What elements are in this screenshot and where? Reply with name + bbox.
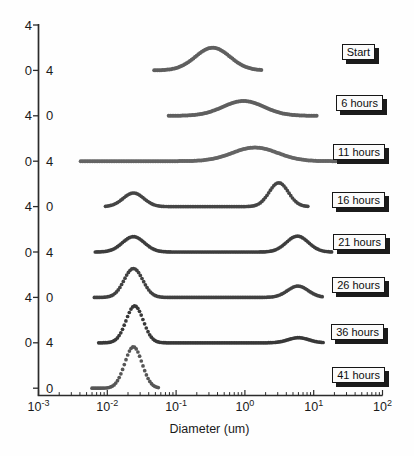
series-label-41-hours: 41 hours (332, 367, 385, 383)
series-label-11-hours: 11 hours (333, 144, 385, 160)
series-labels: Start6 hours11 hours16 hours21 hours26 h… (0, 0, 414, 456)
series-label-16-hours: 16 hours (332, 192, 385, 208)
series-label-start: Start (342, 44, 375, 60)
series-label-6-hours: 6 hours (336, 95, 383, 111)
series-label-26-hours: 26 hours (332, 277, 385, 293)
particle-size-distribution-figure: 404400440044004010-310-210-1100101102Dia… (0, 0, 414, 456)
series-label-21-hours: 21 hours (333, 234, 386, 250)
series-label-36-hours: 36 hours (331, 324, 384, 340)
